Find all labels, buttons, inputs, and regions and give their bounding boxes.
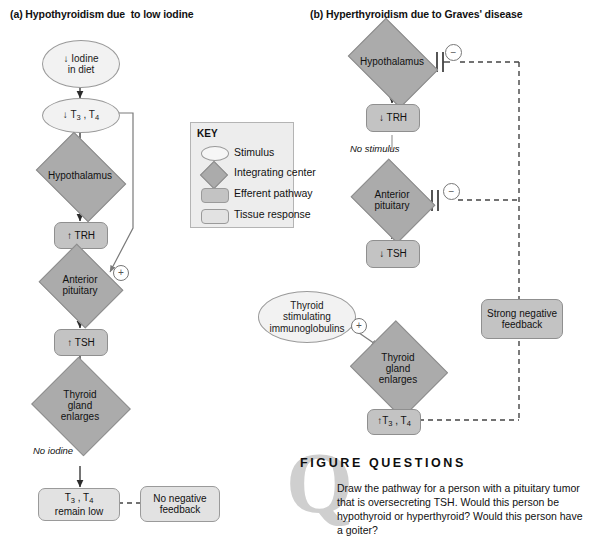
key-title: KEY — [197, 128, 218, 139]
key-swatch-efferent-pathway — [201, 188, 229, 203]
key-label-efferent-pathway: Efferent pathway — [234, 187, 313, 199]
node-trh-up[interactable]: ↑ TRH — [54, 222, 108, 249]
node-label: Thyroid gland enlarges — [26, 373, 134, 438]
node-label: ↑T3 , T4 — [377, 415, 411, 428]
key-label-stimulus: Stimulus — [234, 146, 274, 158]
node-anterior-pituitary-a[interactable]: Anterior pituitary — [48, 259, 112, 311]
node-label: Thyroidstimulatingimmunoglobulins — [269, 300, 344, 334]
node-thyroid-stimulating-immunoglobulins[interactable]: Thyroidstimulatingimmunoglobulins — [258, 291, 356, 343]
minus-sign-icon-anterior-pituitary: − — [443, 183, 460, 200]
node-hypothalamus-a[interactable]: Hypothalamus — [44, 150, 116, 202]
key-swatch-tissue-response — [201, 209, 229, 224]
node-t3-t4-remain-low[interactable]: T3 , T4remain low — [38, 488, 120, 521]
key-label-integrating-center: Integrating center — [234, 166, 316, 178]
node-label: No negativefeedback — [153, 493, 206, 515]
node-trh-down[interactable]: ↓ TRH — [366, 104, 420, 132]
plus-sign-icon-a: + — [113, 265, 129, 281]
node-label: Strong negativefeedback — [487, 308, 557, 330]
node-label: Thyroid gland enlarges — [344, 337, 452, 400]
figure-questions-heading: FIGURE QUESTIONS — [300, 456, 466, 470]
minus-sign-icon-hypothalamus: − — [445, 44, 462, 61]
plus-sign-icon-b: + — [351, 318, 367, 334]
node-no-negative-feedback[interactable]: No negativefeedback — [140, 486, 220, 522]
key-swatch-stimulus — [201, 146, 229, 161]
key-swatch-integrating-center — [204, 165, 222, 183]
node-low-t3-t4[interactable]: ↓ T3 , T4 — [42, 98, 120, 133]
node-label: T3 , T4remain low — [55, 492, 103, 517]
node-label: Anterior pituitary — [342, 174, 442, 226]
figure-questions-body: Draw the pathway for a person with a pit… — [337, 481, 589, 537]
node-label: Hypothalamus — [26, 150, 134, 202]
node-label: ↓ Iodinein diet — [63, 53, 98, 75]
node-hypothalamus-b[interactable]: Hypothalamus — [356, 36, 428, 88]
node-label: ↓ TRH — [379, 112, 407, 123]
node-tsh-up[interactable]: ↑ TSH — [54, 329, 108, 356]
node-strong-negative-feedback[interactable]: Strong negativefeedback — [481, 299, 563, 339]
key-label-tissue-response: Tissue response — [234, 208, 311, 220]
node-t3-t4-up[interactable]: ↑T3 , T4 — [367, 409, 421, 435]
node-anterior-pituitary-b[interactable]: Anterior pituitary — [360, 174, 424, 226]
node-thyroid-gland-enlarges-b[interactable]: Thyroid gland enlarges — [362, 337, 434, 400]
node-label: ↓ T3 , T4 — [63, 109, 99, 122]
node-label: ↑ TSH — [67, 337, 95, 348]
node-label: ↓ TSH — [379, 248, 407, 259]
node-label: ↑ TRH — [67, 230, 95, 241]
node-label: Hypothalamus — [338, 36, 446, 88]
node-thyroid-gland-enlarges-a[interactable]: Thyroid gland enlarges — [44, 373, 116, 438]
node-tsh-down[interactable]: ↓ TSH — [366, 240, 420, 268]
figure-canvas: (a) Hypothyroidism due to low iodine (b)… — [0, 0, 615, 543]
node-iodine-in-diet[interactable]: ↓ Iodinein diet — [42, 40, 120, 88]
